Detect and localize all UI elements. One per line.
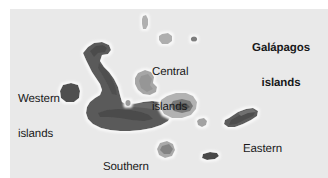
island-central-west-dot	[125, 100, 130, 106]
label-western-islands: Western islands	[18, 71, 60, 164]
label-central-islands: Central islands	[152, 44, 188, 137]
label-southern-islands-line-1: Southern	[103, 162, 149, 174]
map-title-line-1: Galápagos	[243, 43, 319, 55]
label-western-islands-line-1: Western	[18, 94, 60, 106]
label-central-islands-line-2: islands	[152, 102, 188, 114]
island-central-north-dot	[191, 36, 197, 41]
galapagos-map-figure: Galápagos islands Western islands Centra…	[0, 0, 328, 178]
label-southern-islands: Southern islands	[103, 139, 149, 178]
map-title: Galápagos islands	[243, 19, 319, 113]
label-eastern-islands: Eastern islands	[243, 121, 282, 178]
island-western-small	[60, 83, 80, 102]
map-title-line-2: islands	[243, 78, 319, 90]
label-western-islands-line-2: islands	[18, 129, 60, 141]
label-eastern-islands-line-1: Eastern	[243, 144, 282, 156]
label-central-islands-line-1: Central	[152, 67, 188, 79]
